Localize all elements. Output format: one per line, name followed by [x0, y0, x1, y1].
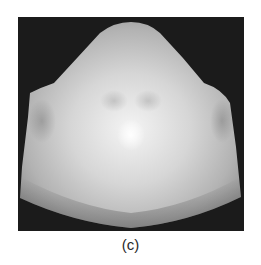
nose-highlight	[117, 119, 145, 151]
left-eye-shadow	[100, 90, 128, 112]
face-surface-image	[18, 17, 244, 231]
right-eye-shadow	[134, 90, 162, 112]
figure-caption: (c)	[0, 236, 261, 253]
face-render-panel	[18, 17, 244, 231]
right-ear-shadow	[210, 99, 234, 143]
left-ear-shadow	[28, 99, 56, 143]
